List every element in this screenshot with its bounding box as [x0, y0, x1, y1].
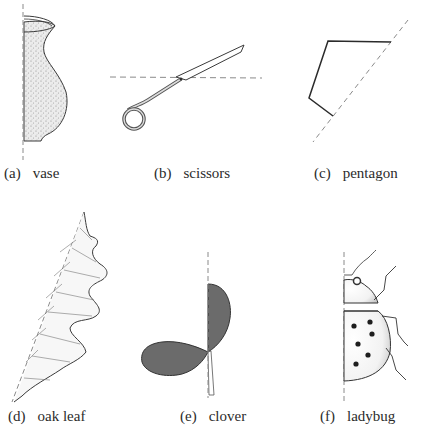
caption-label: vase — [33, 165, 60, 181]
vase-figure — [23, 4, 67, 160]
caption-a: (a)vase — [4, 165, 59, 182]
clover-figure — [142, 252, 231, 398]
caption-letter: (d) — [8, 408, 26, 424]
caption-letter: (f) — [320, 408, 335, 424]
caption-letter: (a) — [4, 165, 21, 181]
symmetry-axis — [313, 20, 408, 142]
oak-leaf-figure — [12, 212, 107, 402]
pentagon-figure — [309, 20, 408, 142]
caption-label: oak leaf — [38, 408, 86, 424]
caption-letter: (b) — [154, 165, 172, 181]
caption-b: (b)scissors — [154, 165, 230, 182]
caption-c: (c)pentagon — [314, 165, 398, 182]
caption-letter: (c) — [314, 165, 331, 181]
caption-e: (e)clover — [180, 408, 246, 425]
ladybug-figure — [344, 250, 408, 402]
caption-f: (f)ladybug — [320, 408, 395, 425]
caption-d: (d)oak leaf — [8, 408, 85, 425]
caption-letter: (e) — [180, 408, 197, 424]
caption-label: pentagon — [343, 165, 398, 181]
scissors-figure — [110, 45, 262, 129]
caption-label: clover — [209, 408, 246, 424]
caption-label: ladybug — [347, 408, 395, 424]
caption-label: scissors — [184, 165, 231, 181]
figure-canvas — [0, 0, 421, 435]
